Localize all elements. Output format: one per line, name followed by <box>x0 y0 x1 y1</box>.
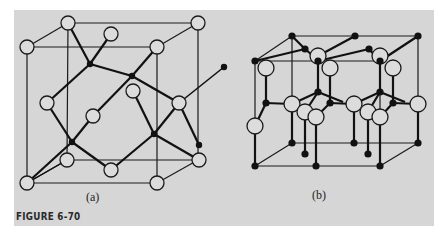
filled-atom <box>365 45 372 52</box>
open-atom <box>346 96 362 112</box>
filled-atom <box>376 88 383 95</box>
filled-atom <box>301 150 308 157</box>
filled-atom <box>314 88 321 95</box>
filled-atom <box>376 162 383 169</box>
open-atom <box>247 118 263 134</box>
filled-atom <box>326 99 333 106</box>
filled-atom <box>364 150 371 157</box>
open-atom <box>308 109 324 125</box>
open-atom <box>410 96 426 112</box>
caption-b: (b) <box>312 188 326 203</box>
open-atom <box>258 60 274 76</box>
filled-atom <box>288 32 295 39</box>
filled-atom <box>312 162 319 169</box>
filled-atom <box>376 57 383 64</box>
filled-atom <box>251 162 258 169</box>
filled-atom <box>414 32 421 39</box>
filled-atom <box>301 45 308 52</box>
filled-atom <box>288 139 295 146</box>
filled-atom <box>351 32 358 39</box>
caption-a: (a) <box>86 190 99 205</box>
open-atom <box>322 60 338 76</box>
filled-atom <box>314 57 321 64</box>
open-atom <box>385 60 401 76</box>
filled-atom <box>350 139 357 146</box>
filled-atoms-b <box>251 32 421 169</box>
filled-atom <box>389 99 396 106</box>
filled-atom <box>414 139 421 146</box>
open-atom <box>372 109 388 125</box>
diagram-b-hexagonal-cell <box>0 0 448 238</box>
figure-label: FIGURE 6-70 <box>16 211 80 222</box>
filled-atom <box>251 57 258 64</box>
filled-atom <box>262 99 269 106</box>
